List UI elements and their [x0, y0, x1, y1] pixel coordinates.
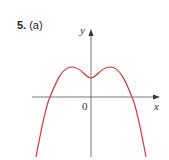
x-axis-label: x: [153, 100, 159, 112]
y-axis-arrow-icon: [89, 29, 94, 36]
origin-label: 0: [82, 100, 88, 112]
x-axis-arrow-icon: [153, 95, 160, 100]
graph: y x 0: [0, 0, 169, 160]
y-axis-label: y: [79, 24, 85, 36]
